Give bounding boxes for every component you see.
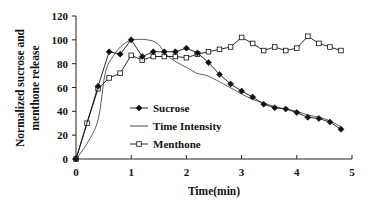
legend-item-menthone: Menthone	[130, 138, 201, 150]
legend: SucroseTime IntensityMenthone	[130, 102, 222, 150]
square-marker	[239, 35, 244, 40]
square-marker	[295, 46, 300, 51]
legend-item-sucrose: Sucrose	[130, 102, 190, 114]
x-tick-label: 5	[349, 166, 355, 178]
y-tick-label: 0	[63, 153, 69, 165]
y-tick-label: 60	[57, 82, 69, 94]
square-marker	[118, 71, 123, 76]
square-marker	[250, 41, 255, 46]
square-marker	[107, 76, 112, 81]
x-axis-title: Time(min)	[188, 185, 240, 198]
y-axis-title-line-2: menthone release	[29, 45, 41, 130]
legend-label: Menthone	[153, 138, 201, 150]
y-tick-label: 40	[57, 105, 69, 117]
x-tick-label: 1	[128, 166, 134, 178]
diamond-marker	[183, 45, 189, 51]
series-layer	[73, 34, 344, 162]
square-marker	[228, 45, 233, 50]
diamond-marker	[283, 106, 289, 112]
series-line	[76, 36, 341, 159]
y-tick-label: 20	[57, 129, 69, 141]
square-marker	[206, 49, 211, 54]
square-marker	[328, 45, 333, 50]
square-marker	[129, 53, 134, 58]
square-marker	[283, 48, 288, 53]
square-marker	[317, 41, 322, 46]
square-marker	[261, 48, 266, 53]
square-marker	[306, 34, 311, 39]
y-axis-title: Normalized sucrose and menthone release	[14, 28, 41, 147]
legend-label: Sucrose	[153, 102, 190, 114]
x-tick-label: 2	[184, 166, 190, 178]
series-time-intensity	[76, 39, 341, 159]
x-tick-label: 0	[73, 166, 79, 178]
y-axis-title-line-1: Normalized sucrose and	[14, 28, 26, 147]
y-tick-label: 80	[57, 58, 69, 70]
x-tick-label: 3	[239, 166, 245, 178]
y-tick-label: 100	[52, 34, 69, 46]
square-marker	[339, 48, 344, 53]
square-marker	[137, 142, 142, 147]
diamond-marker	[250, 94, 256, 100]
square-marker	[217, 47, 222, 52]
square-marker	[272, 45, 277, 50]
diamond-marker	[136, 105, 142, 111]
legend-label: Time Intensity	[153, 120, 222, 132]
series-line	[76, 39, 341, 159]
legend-item-time-intensity: Time Intensity	[130, 120, 222, 132]
y-tick-label: 120	[52, 10, 69, 22]
series-line	[76, 40, 341, 159]
diamond-marker	[106, 49, 112, 55]
x-tick-label: 4	[294, 166, 300, 178]
square-marker	[184, 55, 189, 60]
diamond-marker	[338, 126, 344, 132]
line-chart: 012345020406080100120 SucroseTime Intens…	[0, 0, 370, 210]
